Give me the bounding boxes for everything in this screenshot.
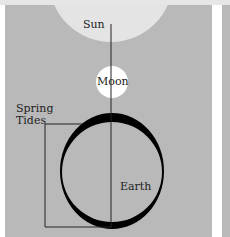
moon-label: Moon (97, 76, 129, 88)
earth-label: Earth (120, 181, 151, 193)
sun-label: Sun (83, 19, 105, 31)
earth-shape (62, 122, 162, 222)
spring-tides-label-line2: Tides (16, 115, 46, 127)
